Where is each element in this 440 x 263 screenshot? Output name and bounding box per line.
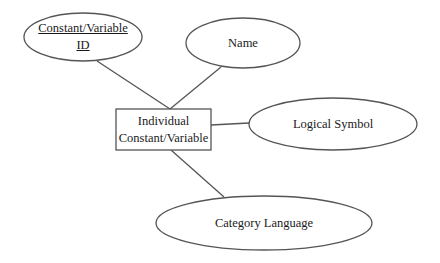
attribute-logical-symbol: Logical Symbol (293, 116, 373, 133)
entity-label-line-1: Individual (119, 113, 209, 130)
attribute-category-language: Category Language (215, 215, 313, 232)
attribute-label: Category Language (215, 215, 313, 232)
attribute-name: Name (228, 35, 258, 52)
entity-individual-constant-variable: Individual Constant/Variable (119, 113, 209, 147)
attribute-label: Logical Symbol (293, 116, 373, 133)
attribute-label: Name (228, 35, 258, 52)
attribute-constant-variable-id: Constant/Variable ID (38, 20, 128, 54)
entity-label-line-2: Constant/Variable (119, 130, 209, 147)
connector-constant-variable-id (97, 61, 170, 109)
connector-category-language (171, 150, 224, 197)
er-diagram-canvas: Individual Constant/Variable Constant/Va… (0, 0, 440, 263)
attribute-label-line-2: ID (38, 37, 128, 54)
connector-logical-symbol (211, 123, 249, 125)
attribute-label-line-1: Constant/Variable (38, 20, 128, 37)
connector-name (170, 67, 221, 109)
